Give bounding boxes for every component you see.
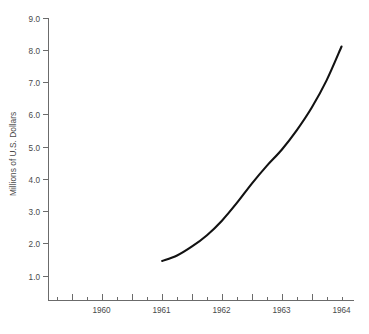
y-tick-label: 8.0 (29, 47, 41, 56)
y-tick-label: 1.0 (29, 273, 41, 282)
y-tick-label: 9.0 (29, 15, 41, 24)
y-tick-label: 6.0 (29, 111, 41, 120)
line-chart: 1.02.03.04.05.06.07.08.09.0 196019611962… (0, 0, 369, 334)
y-axis-title: Millions of U.S. Dollars (8, 112, 18, 196)
y-axis-tick-labels: 1.02.03.04.05.06.07.08.09.0 (29, 15, 41, 282)
y-tick-label: 7.0 (29, 79, 41, 88)
y-tick-label: 3.0 (29, 208, 41, 217)
chart-container: 1.02.03.04.05.06.07.08.09.0 196019611962… (0, 0, 369, 334)
y-tick-label: 2.0 (29, 240, 41, 249)
x-tick-label: 1963 (272, 306, 291, 315)
x-tick-label: 1960 (92, 306, 111, 315)
x-tick-label: 1964 (332, 306, 351, 315)
x-tick-label: 1961 (152, 306, 171, 315)
chart-background (0, 0, 369, 334)
x-tick-label: 1962 (212, 306, 231, 315)
y-tick-label: 4.0 (29, 176, 41, 185)
y-tick-label: 5.0 (29, 144, 41, 153)
